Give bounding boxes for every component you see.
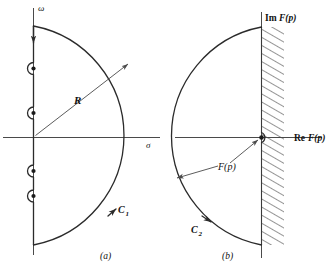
panel-a: ω σ R C 1 (a)	[3, 3, 160, 262]
contour-c2-label-subscript: 2	[198, 230, 203, 238]
fp-leader-to-contour	[177, 166, 218, 178]
im-axis-label-function: F(p)	[278, 13, 296, 24]
panel-b-caption: (b)	[222, 251, 233, 262]
contour-c2-arc	[171, 27, 261, 245]
pole-dot	[31, 169, 35, 173]
radius-label: R	[73, 94, 81, 106]
contour-c1-label-subscript: 1	[126, 210, 130, 218]
re-axis-label-function: F(p)	[307, 133, 325, 144]
fp-leader-to-origin	[230, 140, 258, 163]
contour-c1-arc	[34, 26, 124, 245]
contour-c2-label-group: C 2	[191, 224, 203, 238]
mapped-function-label: F(p)	[217, 161, 236, 173]
re-axis-label-prefix: Re	[294, 133, 305, 143]
pole-dot	[31, 66, 35, 70]
contour-c2-label: C	[191, 224, 198, 235]
panel-a-caption: (a)	[100, 251, 111, 262]
pole-dot	[31, 111, 35, 115]
im-axis-label-group: Im F(p)	[265, 13, 296, 24]
pole-dot	[31, 194, 35, 198]
radius-leader-line	[36, 64, 129, 136]
omega-axis-label: ω	[38, 3, 44, 13]
contour-diagram-svg: ω σ R C 1 (a)	[0, 0, 331, 269]
im-axis-label-prefix: Im	[265, 13, 277, 23]
contour-c1-arc-arrow	[108, 209, 116, 216]
panel-b: Im F(p) Re F(p) F(p) C 2 (b)	[171, 12, 325, 262]
re-axis-label-group: Re F(p)	[294, 133, 325, 144]
contour-c1-imaginary-axis-path	[28, 26, 34, 245]
origin-pole-dot	[259, 135, 264, 140]
contour-c1-label-group: C 1	[118, 204, 129, 218]
contour-c1-label: C	[118, 204, 125, 215]
sigma-axis-label: σ	[146, 140, 151, 150]
figure-container: ω σ R C 1 (a)	[0, 0, 331, 269]
